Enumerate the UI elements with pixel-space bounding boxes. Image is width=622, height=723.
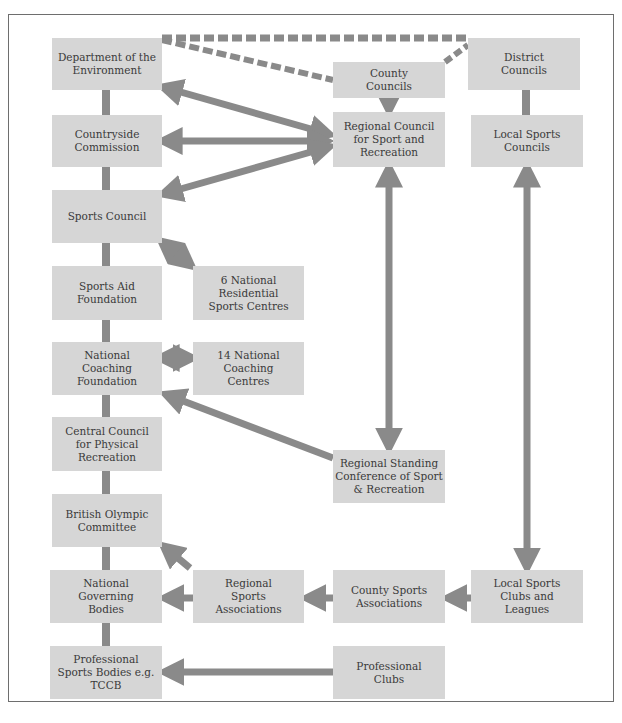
node-regional-council-sport-recreation: Regional Council for Sport and Recreatio… <box>333 112 445 167</box>
node-district-councils: District Councils <box>468 38 580 90</box>
node-countryside-commission: Countryside Commission <box>52 115 162 167</box>
node-central-council-physical-recreation: Central Council for Physical Recreation <box>52 417 162 471</box>
node-local-sports-clubs-leagues: Local Sports Clubs and Leagues <box>471 570 583 623</box>
node-6-national-residential-sports-centres: 6 National Residential Sports Centres <box>193 266 304 320</box>
node-professional-clubs: Professional Clubs <box>333 646 445 699</box>
node-county-councils: County Councils <box>333 62 445 98</box>
node-national-coaching-foundation: National Coaching Foundation <box>52 342 162 395</box>
node-sports-council: Sports Council <box>52 190 162 243</box>
node-professional-sports-bodies: Professional Sports Bodies e.g. TCCB <box>50 646 162 699</box>
node-regional-standing-conference: Regional Standing Conference of Sport & … <box>333 450 445 503</box>
node-national-governing-bodies: National Governing Bodies <box>50 570 162 623</box>
node-local-sports-councils: Local Sports Councils <box>471 115 583 167</box>
node-department-of-environment: Department of the Environment <box>52 38 162 90</box>
node-county-sports-associations: County Sports Associations <box>333 570 445 623</box>
node-14-national-coaching-centres: 14 National Coaching Centres <box>193 342 304 395</box>
node-regional-sports-associations: Regional Sports Associations <box>193 570 304 623</box>
node-british-olympic-committee: British Olympic Committee <box>52 494 162 547</box>
node-sports-aid-foundation: Sports Aid Foundation <box>52 266 162 320</box>
